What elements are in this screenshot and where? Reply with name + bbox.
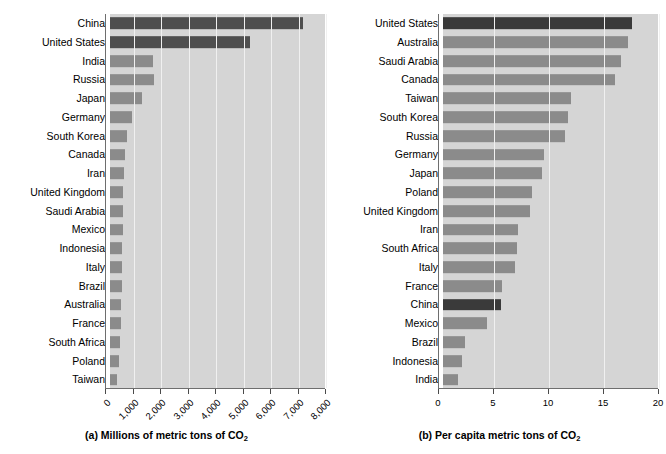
bar-category-label: Iran <box>8 168 110 179</box>
panel-a: ChinaUnited StatesIndiaRussiaJapanGerman… <box>0 0 333 454</box>
bar-category-label: South Korea <box>341 112 443 123</box>
bar-category-label: France <box>8 318 110 329</box>
bar-category-label: Mexico <box>341 318 443 329</box>
x-tick-label: 20 <box>653 397 664 408</box>
bar-category-label: South Africa <box>341 243 443 254</box>
x-tick-mark <box>215 389 216 394</box>
x-tick-label: 10 <box>543 397 554 408</box>
x-tick-mark <box>325 389 326 394</box>
chart-b-caption: (b) Per capita metric tons of CO2 <box>333 429 666 441</box>
gridline <box>134 14 135 388</box>
panel-b: United StatesAustraliaSaudi ArabiaCanada… <box>333 0 666 454</box>
bar-category-label: Australia <box>8 299 110 310</box>
x-tick-label: 5 <box>490 397 495 408</box>
bar-category-label: Germany <box>341 149 443 160</box>
bar-category-label: China <box>8 18 110 29</box>
x-tick-mark <box>133 389 134 394</box>
chart-a-caption-text: (a) Millions of metric tons of CO <box>85 429 244 441</box>
x-tick-mark <box>658 389 659 394</box>
bar-category-label: United Kingdom <box>341 206 443 217</box>
gridline <box>161 14 162 388</box>
chart-a-caption: (a) Millions of metric tons of CO2 <box>0 429 333 441</box>
bar-category-label: Poland <box>8 356 110 367</box>
gridline <box>216 14 217 388</box>
x-tick-mark <box>548 389 549 394</box>
chart-b-caption-subscript: 2 <box>576 434 580 443</box>
x-tick-mark <box>298 389 299 394</box>
gridline <box>494 14 495 388</box>
chart-b-caption-text: (b) Per capita metric tons of CO <box>419 429 577 441</box>
x-tick-mark <box>603 389 604 394</box>
chart-a-axes-overlay <box>105 14 325 389</box>
bar-category-label: Poland <box>341 187 443 198</box>
bar-category-label: China <box>341 299 443 310</box>
bar-category-label: United Kingdom <box>8 187 110 198</box>
bar-category-label: Mexico <box>8 224 110 235</box>
gridline <box>189 14 190 388</box>
bar-category-label: India <box>341 374 443 385</box>
gridline <box>271 14 272 388</box>
chart-a-caption-subscript: 2 <box>244 434 248 443</box>
bar-category-label: Brazil <box>8 281 110 292</box>
bar-category-label: Saudi Arabia <box>341 56 443 67</box>
x-tick-mark <box>160 389 161 394</box>
x-tick-label: 15 <box>598 397 609 408</box>
bar-category-label: Germany <box>8 112 110 123</box>
bar-category-label: Canada <box>8 149 110 160</box>
x-tick-label: 0 <box>435 397 440 408</box>
bar-category-label: India <box>8 56 110 67</box>
bar-category-label: Iran <box>341 224 443 235</box>
chart-b-axes-overlay <box>438 14 658 389</box>
bar-category-label: Italy <box>341 262 443 273</box>
x-tick-mark <box>105 389 106 394</box>
bar-category-label: Japan <box>8 93 110 104</box>
bar-category-label: Indonesia <box>8 243 110 254</box>
gridline <box>244 14 245 388</box>
bar-category-label: Italy <box>8 262 110 273</box>
bar-category-label: Brazil <box>341 337 443 348</box>
chart-b-plot: United StatesAustraliaSaudi ArabiaCanada… <box>341 14 658 389</box>
gridline <box>299 14 300 388</box>
gridline <box>326 14 327 388</box>
bar-category-label: Russia <box>8 74 110 85</box>
bar-category-label: France <box>341 281 443 292</box>
bar-category-label: Canada <box>341 74 443 85</box>
figure-co2-emissions: ChinaUnited StatesIndiaRussiaJapanGerman… <box>0 0 666 454</box>
bar-category-label: South Africa <box>8 337 110 348</box>
chart-b-x-axis: 05101520 <box>438 389 658 434</box>
gridline <box>604 14 605 388</box>
chart-a-plot: ChinaUnited StatesIndiaRussiaJapanGerman… <box>8 14 325 389</box>
x-tick-mark <box>188 389 189 394</box>
x-tick-mark <box>270 389 271 394</box>
bar-category-label: South Korea <box>8 131 110 142</box>
bar-category-label: Indonesia <box>341 356 443 367</box>
bar-category-label: Taiwan <box>8 374 110 385</box>
bar-category-label: Australia <box>341 37 443 48</box>
gridline <box>549 14 550 388</box>
bar-category-label: Saudi Arabia <box>8 206 110 217</box>
bar-category-label: Russia <box>341 131 443 142</box>
bar-category-label: Japan <box>341 168 443 179</box>
x-tick-mark <box>243 389 244 394</box>
chart-a-x-axis: 01,0002,0003,0004,0005,0006,0007,0008,00… <box>105 389 325 434</box>
gridline <box>659 14 660 388</box>
x-tick-mark <box>493 389 494 394</box>
bar-category-label: United States <box>8 37 110 48</box>
bar-category-label: Taiwan <box>341 93 443 104</box>
x-tick-mark <box>438 389 439 394</box>
bar-category-label: United States <box>341 18 443 29</box>
